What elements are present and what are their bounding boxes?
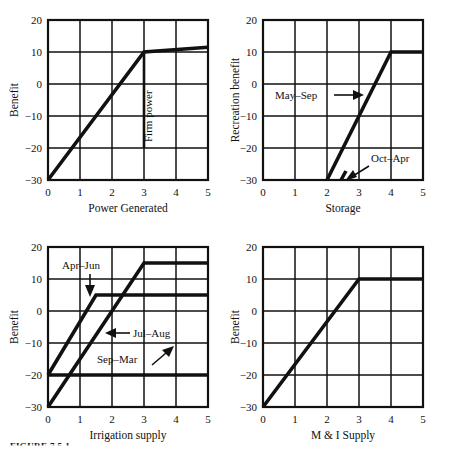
xtick-mi-3: 3 [356,413,362,425]
xtick-irrigation-4: 4 [173,413,179,425]
ytick-irrigation-3: −10 [25,337,43,349]
xtick-recreation-1: 1 [292,186,298,198]
yaxis-title-recreation: Recreation benefit [229,57,241,142]
yaxis-title-power: Benefit [8,82,20,117]
ytick-irrigation-0: 20 [31,241,43,253]
ytick-recreation-0: 20 [246,14,258,26]
xtick-irrigation-5: 5 [205,413,211,425]
ytick-mi-1: 10 [246,273,258,285]
ytick-mi-3: −10 [240,337,258,349]
xtick-recreation-2: 2 [324,186,330,198]
ytick-mi-5: −30 [240,401,258,413]
chart-panel-mi: 20 10 0 −10 −20 −30 0 1 2 3 4 5 M & I Su… [225,227,450,454]
chart-svg-irrigation: Apr–Jun Jul–Aug Sep–Mar 20 10 0 −10 −20 [0,227,225,454]
xtick-mi-5: 5 [420,413,426,425]
xaxis-title-mi: M & I Supply [311,429,375,442]
ytick-irrigation-5: −30 [25,401,43,413]
xtick-power-3: 3 [141,186,147,198]
arrow-sep-mar [152,346,174,365]
xtick-mi-2: 2 [324,413,330,425]
ytick-power-2: 0 [37,78,43,90]
gridlines-irrigation [48,247,208,407]
ytick-irrigation-4: −20 [25,369,43,381]
xtick-irrigation-3: 3 [141,413,147,425]
annotation-sep-mar: Sep–Mar [97,353,138,365]
xtick-mi-0: 0 [260,413,266,425]
plot-frame-power [48,20,208,180]
annotation-may-sep: May–Sep [275,89,318,101]
ytick-power-1: 10 [31,46,43,58]
ytick-power-0: 20 [31,14,43,26]
chart-panel-recreation: May–Sep Oct–Apr 20 10 0 −10 −20 −30 0 1 … [225,0,450,227]
xtick-mi-4: 4 [388,413,394,425]
xtick-power-1: 1 [77,186,83,198]
xtick-power-4: 4 [173,186,179,198]
xtick-power-2: 2 [109,186,115,198]
plot-frame-mi [263,247,423,407]
ytick-recreation-3: −10 [240,110,258,122]
data-series-power-benefit [48,47,208,180]
ytick-mi-4: −20 [240,369,258,381]
xtick-power-0: 0 [45,186,51,198]
data-series-oct-apr [341,171,346,180]
chart-svg-recreation: May–Sep Oct–Apr 20 10 0 −10 −20 −30 0 1 … [225,0,450,227]
arrow-jul-aug [105,328,130,338]
arrow-apr-jun [85,274,95,297]
xtick-recreation-5: 5 [420,186,426,198]
ytick-recreation-5: −30 [240,174,258,186]
xtick-mi-1: 1 [292,413,298,425]
annotation-firm-power: Firm power [142,90,154,142]
ytick-mi-2: 0 [252,305,258,317]
yaxis-title-mi: Benefit [229,309,241,344]
ytick-power-3: −10 [25,110,43,122]
annotation-jul-aug: Jul–Aug [133,327,171,339]
ytick-recreation-2: 0 [252,78,258,90]
ytick-irrigation-2: 0 [37,305,43,317]
ytick-power-4: −20 [25,142,43,154]
xtick-recreation-4: 4 [388,186,394,198]
xtick-recreation-3: 3 [356,186,362,198]
xtick-irrigation-1: 1 [77,413,83,425]
ytick-recreation-4: −20 [240,142,258,154]
chart-panel-irrigation: Apr–Jun Jul–Aug Sep–Mar 20 10 0 −10 −20 [0,227,225,454]
annotation-oct-apr: Oct–Apr [371,152,410,164]
ytick-mi-0: 20 [246,241,258,253]
yaxis-title-irrigation: Benefit [8,309,20,344]
chart-panel-power: Firm power 20 10 0 −10 −20 −30 0 1 2 3 4… [0,0,225,227]
ytick-irrigation-1: 10 [31,273,43,285]
arrow-oct-apr [345,166,369,181]
ytick-power-5: −30 [25,174,43,186]
xtick-power-5: 5 [205,186,211,198]
xtick-irrigation-2: 2 [109,413,115,425]
xaxis-title-power: Power Generated [88,202,168,214]
chart-svg-mi: 20 10 0 −10 −20 −30 0 1 2 3 4 5 M & I Su… [225,227,450,454]
chart-svg-power: Firm power 20 10 0 −10 −20 −30 0 1 2 3 4… [0,0,225,227]
annotation-apr-jun: Apr–Jun [62,259,100,271]
plot-frame-irrigation [48,247,208,407]
gridlines-mi [263,247,423,407]
xaxis-title-recreation: Storage [325,202,360,215]
xtick-recreation-0: 0 [260,186,266,198]
gridlines-power [48,20,208,180]
ytick-recreation-1: 10 [246,46,258,58]
xaxis-title-irrigation: Irrigation supply [90,429,167,442]
xtick-irrigation-0: 0 [45,413,51,425]
figure-panels: Firm power 20 10 0 −10 −20 −30 0 1 2 3 4… [0,0,450,454]
